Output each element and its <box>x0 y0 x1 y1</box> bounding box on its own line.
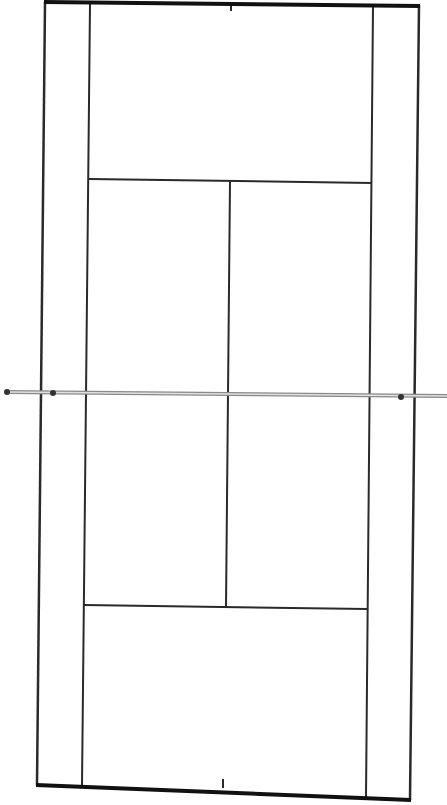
net-post-right <box>398 394 404 400</box>
left-singles-sideline <box>82 4 90 786</box>
tennis-court-diagram <box>0 0 447 805</box>
net-post-left-inner <box>50 390 56 396</box>
right-doubles-sideline <box>410 6 419 799</box>
right-singles-sideline <box>366 6 373 797</box>
top-baseline <box>44 2 420 6</box>
net-post-left-outer <box>4 389 10 395</box>
